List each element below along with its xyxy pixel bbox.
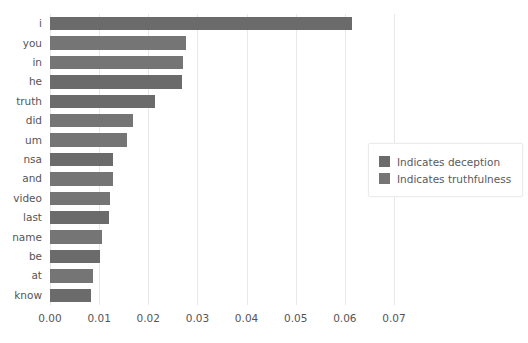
bar-row [50, 95, 394, 109]
bar-row [50, 172, 394, 186]
bar-did [50, 114, 133, 128]
bar-row [50, 153, 394, 167]
y-tick-label-at: at [0, 266, 42, 285]
bar-name [50, 230, 102, 244]
y-tick-label-last: last [0, 208, 42, 227]
legend-label: Indicates truthfulness [397, 173, 511, 185]
bar-row [50, 36, 394, 50]
bar-truth [50, 95, 155, 109]
y-tick-label-truth: truth [0, 92, 42, 111]
bar-row [50, 250, 394, 264]
bar-row [50, 75, 394, 89]
bar-he [50, 75, 182, 89]
bar-row [50, 114, 394, 128]
legend-label: Indicates deception [397, 156, 500, 168]
legend-swatch-icon [379, 173, 390, 184]
bar-know [50, 289, 91, 303]
legend-entry-1[interactable]: Indicates deception [379, 153, 511, 170]
bar-row [50, 56, 394, 70]
y-tick-label-he: he [0, 72, 42, 91]
bar-row [50, 17, 394, 31]
y-tick-label-i: i [0, 14, 42, 33]
y-tick-label-did: did [0, 111, 42, 130]
bar-be [50, 250, 100, 264]
bar-row [50, 230, 394, 244]
bar-row [50, 133, 394, 147]
y-tick-label-name: name [0, 228, 42, 247]
y-tick-label-nsa: nsa [0, 150, 42, 169]
bar-i [50, 17, 352, 31]
bar-last [50, 211, 109, 225]
y-tick-label-video: video [0, 189, 42, 208]
bar-and [50, 172, 113, 186]
bar-you [50, 36, 186, 50]
bar-video [50, 192, 110, 206]
bar-row [50, 269, 394, 283]
legend-swatch-icon [379, 156, 390, 167]
y-tick-label-be: be [0, 247, 42, 266]
plot-area [50, 14, 394, 305]
bar-chart: iyouinhetruthdidumnsaandvideolastnamebea… [0, 0, 528, 343]
bar-in [50, 56, 183, 70]
bar-at [50, 269, 93, 283]
bar-row [50, 211, 394, 225]
bar-row [50, 192, 394, 206]
y-tick-label-know: know [0, 286, 42, 305]
x-tick-label-0.07: 0.07 [364, 312, 424, 324]
bar-nsa [50, 153, 113, 167]
bar-row [50, 289, 394, 303]
chart-legend: Indicates deceptionIndicates truthfulnes… [368, 143, 523, 197]
y-tick-label-um: um [0, 131, 42, 150]
y-tick-label-and: and [0, 169, 42, 188]
y-tick-label-in: in [0, 53, 42, 72]
y-tick-label-you: you [0, 34, 42, 53]
legend-entry-2[interactable]: Indicates truthfulness [379, 170, 511, 187]
bar-um [50, 133, 127, 147]
